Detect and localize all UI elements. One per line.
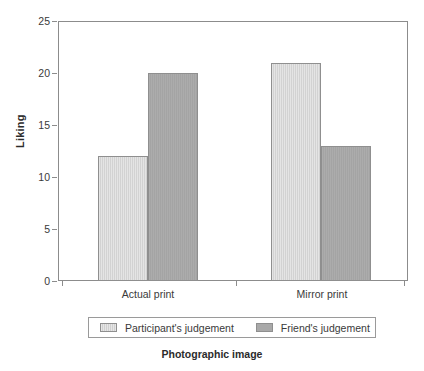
bar-mirror-participant[interactable] (271, 63, 321, 281)
legend: Participant's judgement Friend's judgeme… (88, 317, 376, 338)
y-tick-label-15: 15 (26, 120, 50, 130)
y-tick-mark-15 (52, 125, 57, 126)
legend-swatch-dark-icon (256, 323, 273, 332)
bar-actual-participant[interactable] (98, 156, 148, 281)
y-axis-title: Liking (14, 120, 26, 148)
y-tick-label-25: 25 (26, 16, 50, 26)
legend-label-participant: Participant's judgement (125, 322, 234, 334)
x-tick-mark-start (62, 281, 63, 286)
y-tick-label-0: 0 (26, 276, 50, 286)
y-tick-mark-5 (52, 229, 57, 230)
y-tick-label-20: 20 (26, 68, 50, 78)
y-tick-label-10: 10 (26, 172, 50, 182)
y-tick-mark-25 (52, 21, 57, 22)
x-category-label-mirror-print: Mirror print (262, 288, 382, 300)
legend-item-friend[interactable]: Friend's judgement (256, 322, 370, 334)
y-tick-label-5: 5 (26, 224, 50, 234)
x-axis-title: Photographic image (0, 348, 424, 360)
x-tick-mark-middle (236, 281, 237, 286)
bar-chart-figure: Liking 25 20 15 10 5 0 Actual print Mirr… (0, 0, 424, 371)
y-tick-mark-20 (52, 73, 57, 74)
legend-label-friend: Friend's judgement (281, 322, 370, 334)
legend-swatch-light-icon (100, 323, 117, 332)
x-tick-mark-end (404, 281, 405, 286)
legend-item-participant[interactable]: Participant's judgement (100, 322, 234, 334)
y-tick-mark-10 (52, 177, 57, 178)
bar-actual-friend[interactable] (148, 73, 198, 281)
y-tick-mark-0 (52, 281, 57, 282)
x-category-label-actual-print: Actual print (88, 288, 208, 300)
bar-mirror-friend[interactable] (321, 146, 371, 281)
